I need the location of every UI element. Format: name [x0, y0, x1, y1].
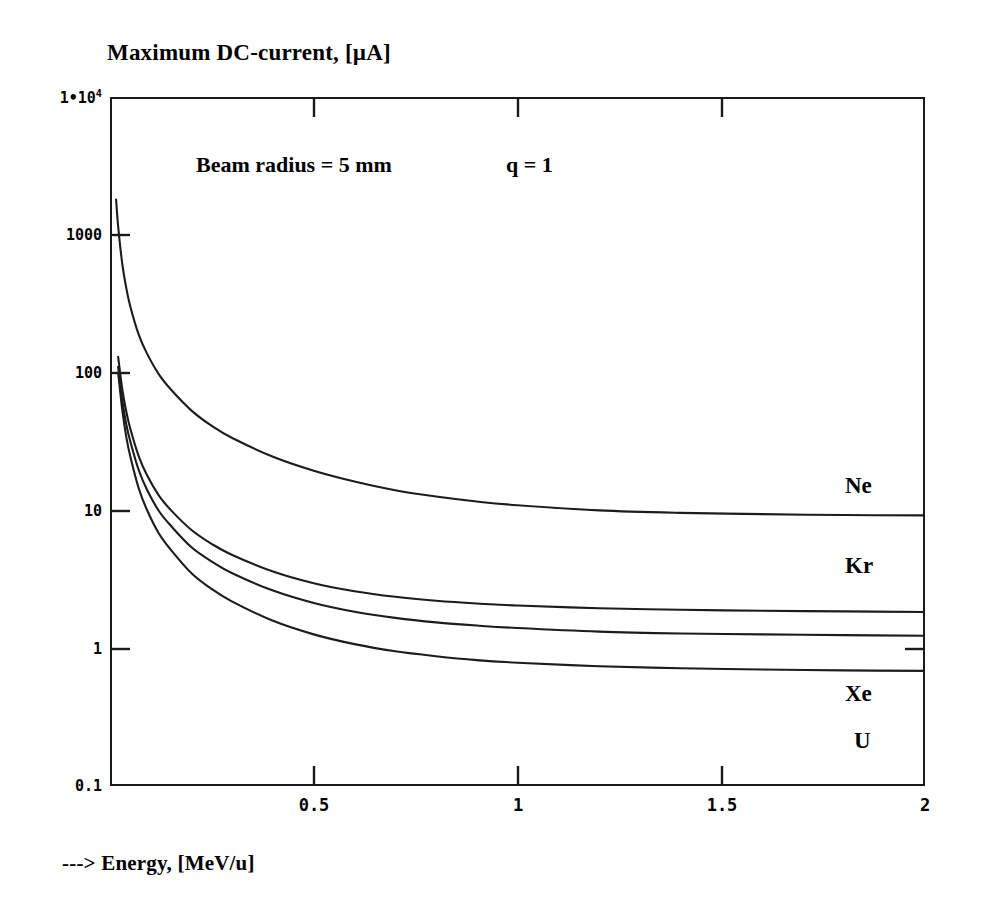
curve-ne [116, 200, 925, 516]
chart-curves-layer [0, 0, 988, 923]
series-paths [116, 200, 925, 671]
curve-u [118, 373, 925, 671]
axis-ticks [110, 97, 925, 786]
curve-kr [118, 357, 925, 612]
curve-xe [118, 367, 925, 636]
x-axis-title: ---> Energy, [MeV/u] [62, 851, 255, 876]
chart-figure: Maximum DC-current, [µA] 1•104 1000 100 … [0, 0, 988, 923]
